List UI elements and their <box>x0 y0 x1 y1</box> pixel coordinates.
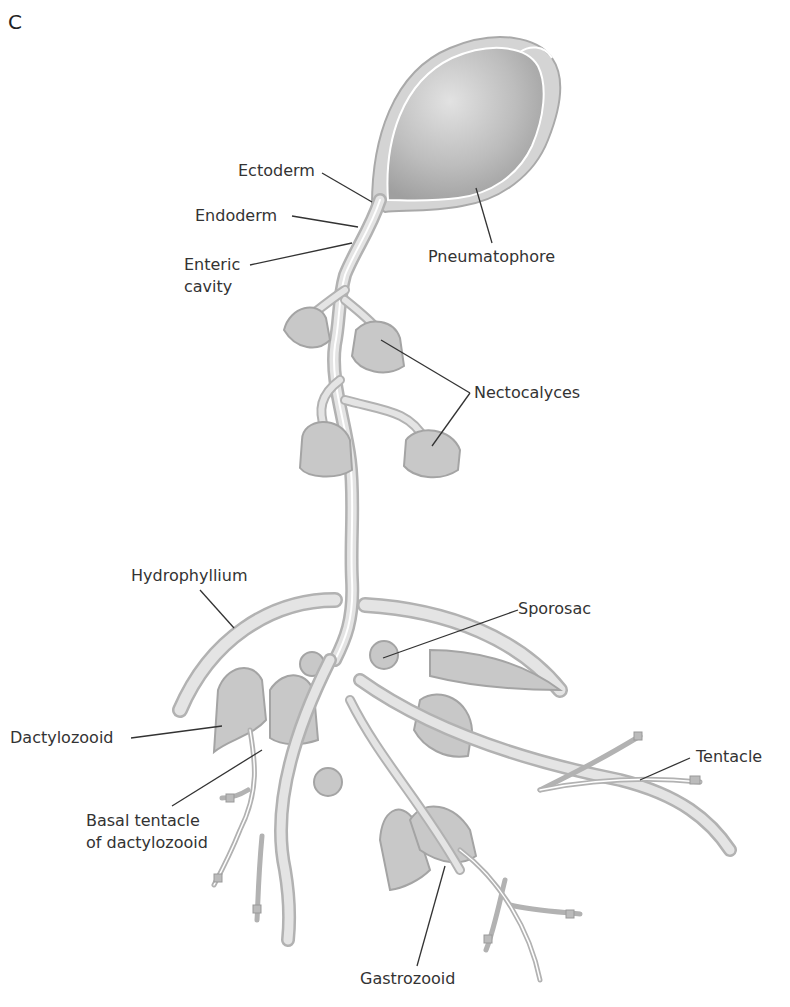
label-tentacle: Tentacle <box>696 746 762 767</box>
label-basal-tentacle-2: of dactylozooid <box>86 832 208 853</box>
zooids <box>214 650 560 890</box>
label-pneumatophore: Pneumatophore <box>428 246 555 267</box>
nectocalyces-group <box>284 290 460 477</box>
label-ectoderm: Ectoderm <box>238 160 315 181</box>
siphonophore-illustration <box>0 0 790 1007</box>
label-enteric-cavity-2: cavity <box>184 276 232 297</box>
label-nectocalyces: Nectocalyces <box>474 382 580 403</box>
label-dactylozooid: Dactylozooid <box>10 727 113 748</box>
label-enteric-cavity-1: Enteric <box>184 254 240 275</box>
pneumatophore <box>372 37 560 212</box>
label-endoderm: Endoderm <box>195 205 277 226</box>
label-basal-tentacle-1: Basal tentacle <box>86 810 200 831</box>
label-sporosac: Sporosac <box>518 598 591 619</box>
label-hydrophyllium: Hydrophyllium <box>131 565 248 586</box>
label-gastrozooid: Gastrozooid <box>360 968 455 989</box>
